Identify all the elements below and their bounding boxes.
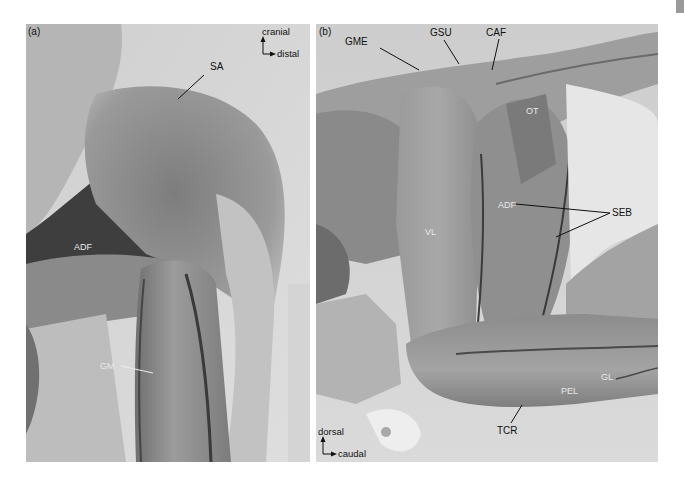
dissection-photo-a bbox=[26, 24, 310, 462]
panel-a-photo: (a) cranial distal SA ADF GM bbox=[26, 24, 310, 462]
label-ot: OT bbox=[526, 106, 539, 116]
label-seb: SEB bbox=[612, 208, 632, 218]
panel-b-photo: (b) GME GSU CAF OT SEB ADF VL GL PEL TCR… bbox=[316, 24, 658, 462]
panel-label-b: (b) bbox=[319, 26, 331, 37]
label-adf: ADF bbox=[74, 242, 92, 252]
page-edge-tab bbox=[676, 0, 684, 13]
panel-label-a: (a) bbox=[28, 26, 40, 37]
orientation-up-label-b: dorsal bbox=[318, 426, 344, 437]
orientation-up-label-a: cranial bbox=[262, 26, 290, 37]
label-vl: VL bbox=[425, 227, 436, 237]
label-tcr: TCR bbox=[497, 426, 518, 436]
label-sa: SA bbox=[210, 62, 223, 72]
orientation-right-label-b: caudal bbox=[338, 448, 366, 459]
label-pel: PEL bbox=[561, 386, 578, 396]
label-gsu: GSU bbox=[430, 28, 452, 38]
label-adf-b: ADF bbox=[498, 200, 516, 210]
label-caf: CAF bbox=[486, 28, 506, 38]
label-gl: GL bbox=[601, 372, 613, 382]
dissection-photo-b bbox=[316, 24, 658, 462]
orientation-right-label-a: distal bbox=[277, 48, 299, 59]
label-gme: GME bbox=[345, 37, 368, 47]
label-gm: GM bbox=[100, 361, 115, 371]
